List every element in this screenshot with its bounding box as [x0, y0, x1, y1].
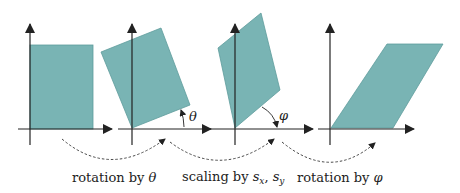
- scaled-parallelogram-shape: [218, 13, 280, 128]
- transition-arrow-1: [62, 139, 165, 160]
- panel-scaled: φ: [205, 13, 313, 145]
- theta-label: θ: [189, 109, 197, 124]
- caption-scaling: scaling by sx, sy: [182, 169, 285, 186]
- phi-angle-arc: [262, 107, 277, 127]
- transition-arrow-3: [282, 142, 375, 162]
- caption-rotation-theta: rotation by θ: [72, 170, 157, 185]
- theta-angle-arc: [181, 110, 184, 127]
- panel-final: [318, 24, 443, 145]
- panel-original: [18, 24, 112, 145]
- transition-arrow-2: [170, 139, 274, 160]
- caption-rotation-phi: rotation by φ: [297, 170, 384, 185]
- phi-label: φ: [279, 108, 289, 123]
- panel-rotated: θ: [101, 24, 211, 145]
- rotated-rectangle-shape: [101, 28, 190, 128]
- rectangle-shape: [30, 45, 93, 129]
- transformation-diagram: θ φ rotation by θ scaling by sx, sy rota…: [0, 0, 460, 193]
- final-parallelogram-shape: [331, 44, 443, 128]
